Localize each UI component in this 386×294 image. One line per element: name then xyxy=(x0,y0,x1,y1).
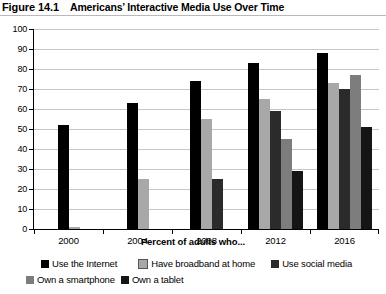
figure-header: Figure 14.1 Americans’ Interactive Media… xyxy=(0,0,386,18)
bar xyxy=(69,227,80,229)
figure-header-inner: Figure 14.1 Americans’ Interactive Media… xyxy=(0,0,386,13)
bar xyxy=(201,119,212,229)
x-axis-tick xyxy=(172,230,173,234)
figure-title: Americans’ Interactive Media Use Over Ti… xyxy=(70,1,284,13)
gridline xyxy=(34,49,379,50)
legend-label-use-the-internet: Use the Internet xyxy=(52,259,117,269)
y-axis-tick-label: 100 xyxy=(3,25,27,34)
y-axis-tick xyxy=(29,89,33,90)
gridline xyxy=(34,29,379,30)
x-axis-tick xyxy=(378,230,379,234)
bar xyxy=(361,127,372,229)
legend-swatch-own-a-smartphone xyxy=(26,276,34,284)
legend-item-use-social-media: Use social media xyxy=(271,259,352,269)
legend-label-own-a-smartphone: Own a smartphone xyxy=(37,275,115,285)
y-axis-tick xyxy=(29,169,33,170)
legend-swatch-own-a-tablet xyxy=(121,276,129,284)
bar xyxy=(58,125,69,229)
legend-row-1: Use the Internet Have broadband at home … xyxy=(0,256,386,272)
legend-item-own-a-tablet: Own a tablet xyxy=(121,275,184,285)
x-axis-label: Percent of adults who... xyxy=(0,236,386,247)
bar xyxy=(328,83,339,229)
y-axis-tick-label: 70 xyxy=(3,85,27,94)
legend-item-own-a-smartphone: Own a smartphone xyxy=(26,275,115,285)
y-axis-tick-label: 60 xyxy=(3,105,27,114)
bar xyxy=(259,99,270,229)
figure-number: Figure 14.1 xyxy=(2,1,59,13)
y-axis-tick xyxy=(29,189,33,190)
x-axis-tick xyxy=(34,230,35,234)
bar xyxy=(212,179,223,229)
y-axis-tick-label: 50 xyxy=(3,125,27,134)
y-axis-tick-label: 20 xyxy=(3,185,27,194)
y-axis-tick xyxy=(29,49,33,50)
chart-plot-area: 0102030405060708090100 20002004200820122… xyxy=(0,24,386,236)
y-axis-tick xyxy=(29,69,33,70)
y-axis-tick-label: 30 xyxy=(3,165,27,174)
legend-swatch-use-social-media xyxy=(271,260,279,268)
legend-label-have-broadband-at-home: Have broadband at home xyxy=(151,259,255,269)
y-axis-tick-label: 0 xyxy=(3,225,27,234)
y-axis-tick-label: 80 xyxy=(3,65,27,74)
y-axis-tick xyxy=(29,109,33,110)
y-axis-tick xyxy=(29,129,33,130)
x-axis-tick xyxy=(103,230,104,234)
y-axis-tick xyxy=(29,149,33,150)
bar xyxy=(190,81,201,229)
bar xyxy=(281,139,292,229)
y-axis-tick xyxy=(29,29,33,30)
y-axis-tick xyxy=(29,229,33,230)
bar xyxy=(292,171,303,229)
bar xyxy=(270,111,281,229)
bar xyxy=(127,103,138,229)
legend-row-2: Own a smartphone Own a tablet xyxy=(0,272,386,288)
bar xyxy=(138,179,149,229)
y-axis-tick-label: 90 xyxy=(3,45,27,54)
y-axis-tick xyxy=(29,209,33,210)
legend-item-use-the-internet: Use the Internet xyxy=(41,259,117,269)
legend-label-use-social-media: Use social media xyxy=(282,259,352,269)
header-divider xyxy=(0,15,386,16)
legend-item-have-broadband-at-home: Have broadband at home xyxy=(138,259,255,269)
y-axis-tick-label: 40 xyxy=(3,145,27,154)
bar xyxy=(339,89,350,229)
legend-label-own-a-tablet: Own a tablet xyxy=(132,275,184,285)
x-axis-tick xyxy=(310,230,311,234)
bar xyxy=(248,63,259,229)
bar xyxy=(350,75,361,229)
chart-legend: Use the Internet Have broadband at home … xyxy=(0,256,386,288)
legend-swatch-use-the-internet xyxy=(41,260,49,268)
y-axis-tick-label: 10 xyxy=(3,205,27,214)
x-axis-line xyxy=(33,229,379,230)
bar xyxy=(317,53,328,229)
x-axis-tick xyxy=(241,230,242,234)
legend-swatch-have-broadband-at-home xyxy=(138,259,148,269)
